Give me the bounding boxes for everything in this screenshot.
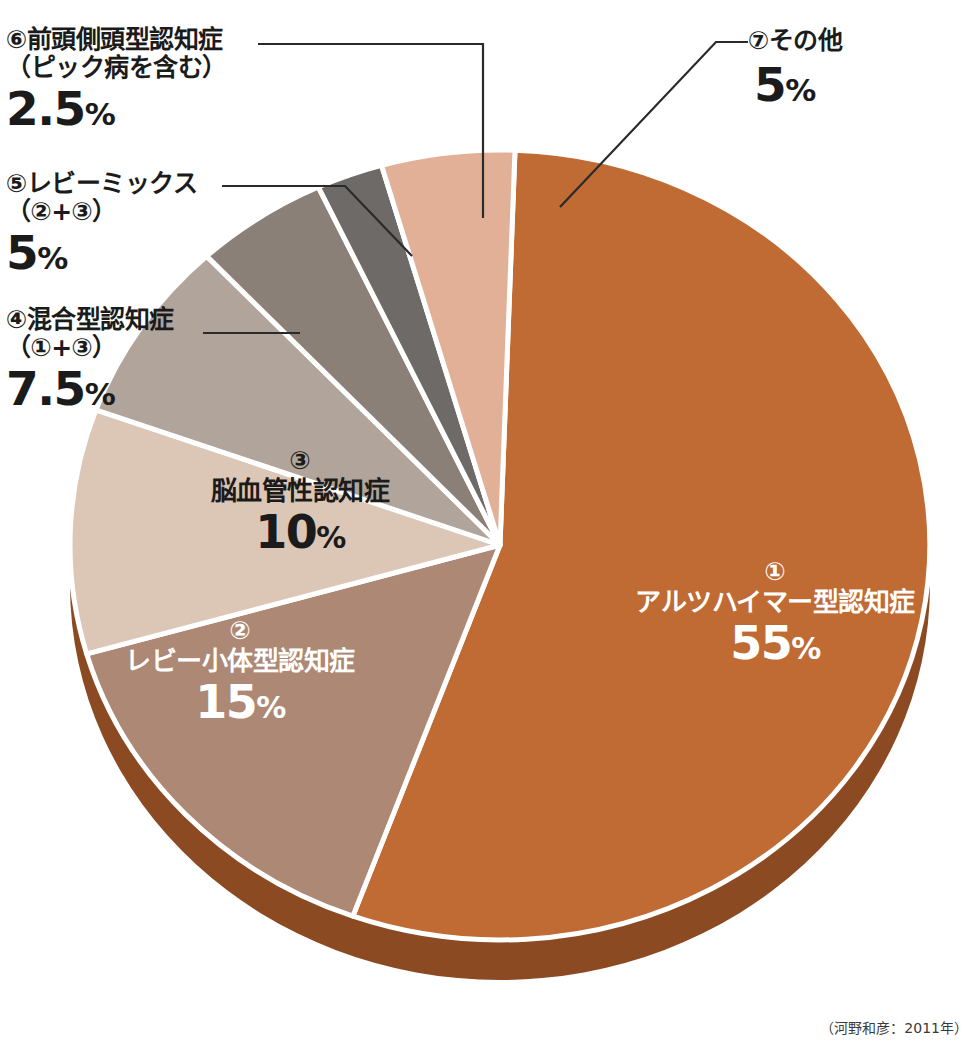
callout-5-line2: （②+③）: [6, 198, 197, 226]
callout-7-line1: ⑦その他: [748, 27, 842, 55]
slice-label-3-value: 10%: [180, 507, 420, 558]
callout-6-value: 2.5%: [6, 85, 227, 132]
callout-label-4: ④混合型認知症 （①+③） 7.5%: [6, 306, 174, 412]
slice-label-3: ③ 脳血管性認知症 10%: [180, 447, 420, 558]
slice-label-1-number: ①: [620, 558, 930, 586]
slice-label-3-number: ③: [180, 447, 420, 475]
callout-5-value: 5%: [6, 229, 197, 276]
source-note: （河野和彦：2011年）: [820, 1017, 968, 1037]
callout-7-value: 5%: [754, 61, 842, 108]
pie-chart-graphic: [0, 0, 980, 1045]
callout-6-line2: （ピック病を含む）: [6, 54, 227, 82]
callout-label-7: ⑦その他 5%: [748, 27, 842, 108]
slice-label-2-number: ②: [100, 617, 380, 645]
callout-5-line1: ⑤レビーミックス: [6, 170, 197, 198]
callout-4-line2: （①+③）: [6, 334, 174, 362]
callout-6-line1: ⑥前頭側頭型認知症: [6, 26, 227, 54]
callout-4-line1: ④混合型認知症: [6, 306, 174, 334]
slice-label-1-value: 55%: [620, 618, 930, 669]
slice-label-1: ① アルツハイマー型認知症 55%: [620, 558, 930, 669]
slice-label-2-value: 15%: [100, 677, 380, 728]
slice-label-2: ② レビー小体型認知症 15%: [100, 617, 380, 728]
callout-label-6: ⑥前頭側頭型認知症 （ピック病を含む） 2.5%: [6, 26, 227, 132]
callout-4-value: 7.5%: [6, 365, 174, 412]
slice-label-3-name: 脳血管性認知症: [180, 477, 420, 506]
pie-chart-figure: ⑥前頭側頭型認知症 （ピック病を含む） 2.5% ⑤レビーミックス （②+③） …: [0, 0, 980, 1045]
slice-label-2-name: レビー小体型認知症: [100, 647, 380, 676]
callout-label-5: ⑤レビーミックス （②+③） 5%: [6, 170, 197, 276]
slice-label-1-name: アルツハイマー型認知症: [620, 588, 930, 617]
